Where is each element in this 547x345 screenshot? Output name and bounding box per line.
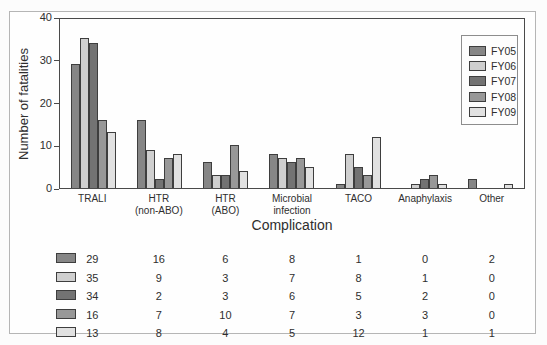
bar-fy07 bbox=[89, 43, 98, 188]
bar-fy08 bbox=[230, 145, 239, 188]
legend-swatch-icon bbox=[469, 61, 486, 71]
bar-fy05 bbox=[269, 154, 278, 188]
table-cell: 7 bbox=[270, 271, 314, 285]
bar-fy09 bbox=[438, 184, 447, 188]
table-row-fy08: 167107330 bbox=[10, 308, 535, 322]
bar-fy06 bbox=[411, 184, 420, 188]
y-tick-mark bbox=[54, 18, 59, 19]
table-cell: 7 bbox=[270, 308, 314, 322]
legend-swatch-icon bbox=[469, 92, 486, 102]
bar-group-3 bbox=[259, 19, 325, 188]
y-tick-mark bbox=[54, 189, 59, 190]
plot-area bbox=[59, 18, 525, 189]
y-tick-label: 10 bbox=[30, 139, 52, 152]
bar-fy05 bbox=[468, 179, 477, 188]
table-cell: 3 bbox=[203, 271, 247, 285]
bar-fy09 bbox=[504, 184, 513, 188]
bar-fy07 bbox=[221, 175, 230, 188]
table-cell: 3 bbox=[203, 289, 247, 303]
legend-label: FY07 bbox=[491, 75, 516, 87]
scanned-figure-page: Number of fatalities Complication FY05FY… bbox=[0, 0, 547, 345]
table-cell: 2 bbox=[137, 289, 181, 303]
table-cell: 6 bbox=[203, 252, 247, 266]
table-cell: 3 bbox=[403, 308, 447, 322]
legend-entry-fy07: FY07 bbox=[469, 74, 517, 89]
y-tick-mark bbox=[54, 103, 59, 104]
table-cell: 1 bbox=[470, 326, 514, 340]
bar-fy06 bbox=[345, 154, 354, 188]
table-cell: 0 bbox=[470, 271, 514, 285]
bar-fy09 bbox=[372, 137, 381, 188]
bar-fy06 bbox=[80, 38, 89, 188]
table-cell: 13 bbox=[70, 326, 114, 340]
bar-fy09 bbox=[305, 167, 314, 188]
table-cell: 16 bbox=[70, 308, 114, 322]
bar-fy09 bbox=[173, 154, 182, 188]
x-axis-title: Complication bbox=[59, 217, 525, 233]
bar-group-5 bbox=[391, 19, 457, 188]
legend-label: FY05 bbox=[491, 45, 516, 57]
legend-swatch-icon bbox=[469, 76, 486, 86]
bar-group-4 bbox=[325, 19, 391, 188]
table-cell: 16 bbox=[137, 252, 181, 266]
table-cell: 0 bbox=[470, 308, 514, 322]
table-row-fy07: 34236520 bbox=[10, 289, 535, 303]
legend-label: FY06 bbox=[491, 60, 516, 72]
table-row-fy09: 138451211 bbox=[10, 326, 535, 340]
bar-fy08 bbox=[363, 175, 372, 188]
bar-fy09 bbox=[107, 132, 116, 188]
bar-fy08 bbox=[164, 158, 173, 188]
x-category-label-line: infection bbox=[247, 205, 337, 217]
bar-fy07 bbox=[420, 179, 429, 188]
x-category-label: Other bbox=[447, 193, 537, 205]
figure-frame: Number of fatalities Complication FY05FY… bbox=[9, 11, 536, 334]
legend-entry-fy08: FY08 bbox=[469, 89, 517, 104]
table-cell: 9 bbox=[137, 271, 181, 285]
y-tick-mark bbox=[54, 60, 59, 61]
legend-entry-fy06: FY06 bbox=[469, 58, 517, 73]
table-cell: 0 bbox=[470, 289, 514, 303]
bar-fy07 bbox=[354, 167, 363, 188]
table-cell: 6 bbox=[270, 289, 314, 303]
bar-group-1 bbox=[126, 19, 192, 188]
table-cell: 7 bbox=[137, 308, 181, 322]
table-row-fy05: 291668102 bbox=[10, 252, 535, 266]
table-cell: 5 bbox=[337, 289, 381, 303]
table-cell: 1 bbox=[337, 252, 381, 266]
table-cell: 35 bbox=[70, 271, 114, 285]
table-cell: 5 bbox=[270, 326, 314, 340]
y-tick-label: 30 bbox=[30, 54, 52, 67]
table-cell: 2 bbox=[470, 252, 514, 266]
bar-fy08 bbox=[429, 175, 438, 188]
table-cell: 0 bbox=[403, 252, 447, 266]
bar-group-2 bbox=[193, 19, 259, 188]
y-tick-label: 40 bbox=[30, 11, 52, 24]
table-cell: 1 bbox=[403, 271, 447, 285]
legend-label: FY08 bbox=[491, 91, 516, 103]
legend-label: FY09 bbox=[491, 106, 516, 118]
bar-fy06 bbox=[146, 150, 155, 188]
x-category-label-line: Other bbox=[447, 193, 537, 205]
table-cell: 4 bbox=[203, 326, 247, 340]
bar-group-0 bbox=[60, 19, 126, 188]
bar-fy07 bbox=[287, 162, 296, 188]
bar-fy06 bbox=[212, 175, 221, 188]
bar-fy05 bbox=[203, 162, 212, 188]
table-cell: 2 bbox=[403, 289, 447, 303]
legend-swatch-icon bbox=[469, 46, 486, 56]
table-row-fy06: 35937810 bbox=[10, 271, 535, 285]
legend: FY05FY06FY07FY08FY09 bbox=[461, 35, 518, 125]
bar-fy06 bbox=[278, 158, 287, 188]
bar-fy07 bbox=[155, 179, 164, 188]
legend-entry-fy05: FY05 bbox=[469, 43, 517, 58]
table-cell: 29 bbox=[70, 252, 114, 266]
table-cell: 8 bbox=[337, 271, 381, 285]
table-cell: 10 bbox=[203, 308, 247, 322]
table-cell: 12 bbox=[337, 326, 381, 340]
bar-fy08 bbox=[296, 158, 305, 188]
table-cell: 3 bbox=[337, 308, 381, 322]
table-cell: 8 bbox=[137, 326, 181, 340]
legend-swatch-icon bbox=[469, 107, 486, 117]
table-cell: 1 bbox=[403, 326, 447, 340]
legend-entry-fy09: FY09 bbox=[469, 105, 517, 120]
